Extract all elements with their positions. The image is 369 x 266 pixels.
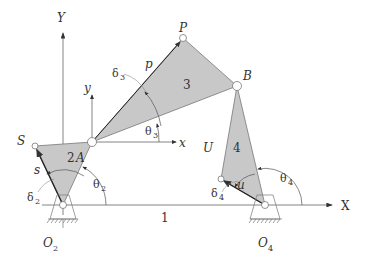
global-x-label: X — [341, 199, 350, 213]
point-p — [180, 35, 187, 42]
svg-text:3: 3 — [120, 73, 125, 82]
svg-text:O: O — [43, 236, 53, 250]
label-b: B — [242, 69, 252, 83]
local-x-label: x — [179, 136, 186, 150]
point-u — [218, 176, 224, 182]
joint-a — [88, 138, 97, 147]
svg-text:2: 2 — [101, 184, 106, 193]
link-label-1: 1 — [161, 211, 169, 225]
label-a: A — [75, 151, 85, 165]
svg-text:2: 2 — [35, 197, 40, 206]
label-p: P — [178, 21, 188, 35]
svg-text:O: O — [258, 236, 268, 250]
link-label-2: 2 — [67, 151, 75, 165]
svg-text:4: 4 — [268, 244, 273, 253]
length-s-label: s — [34, 163, 40, 177]
svg-text:δ: δ — [27, 191, 34, 204]
length-u-label: u — [237, 178, 245, 192]
label-delta2: δ 2 — [27, 191, 40, 206]
svg-text:4: 4 — [219, 193, 224, 202]
svg-text:3: 3 — [153, 131, 158, 140]
link-label-3: 3 — [183, 78, 191, 92]
point-s — [32, 143, 38, 149]
local-y-label: y — [83, 81, 91, 95]
svg-text:2: 2 — [53, 244, 58, 253]
pivot-o2 — [60, 202, 67, 209]
label-u: U — [203, 141, 214, 155]
joint-b — [233, 82, 242, 91]
label-theta2: θ 2 — [93, 178, 106, 193]
label-delta4: δ 4 — [211, 187, 224, 202]
svg-text:θ: θ — [93, 178, 100, 191]
label-s: S — [17, 134, 25, 148]
label-o4: O 4 — [258, 236, 273, 253]
svg-text:θ: θ — [280, 172, 287, 185]
global-y-label: Y — [57, 11, 66, 25]
length-p-label: p — [145, 57, 153, 71]
label-delta3: δ 3 — [112, 67, 125, 82]
linkage-diagram: Y X y x A B P S U O — [0, 0, 369, 266]
svg-text:θ: θ — [145, 125, 152, 138]
label-o2: O 2 — [43, 236, 58, 253]
svg-text:4: 4 — [288, 178, 293, 187]
label-theta3: θ 3 — [145, 125, 158, 140]
label-theta4: θ 4 — [280, 172, 293, 187]
svg-text:δ: δ — [211, 187, 218, 200]
link-3-coupler — [92, 38, 237, 142]
link-label-4: 4 — [233, 141, 241, 155]
pivot-o4 — [262, 202, 269, 209]
svg-text:δ: δ — [112, 67, 119, 80]
